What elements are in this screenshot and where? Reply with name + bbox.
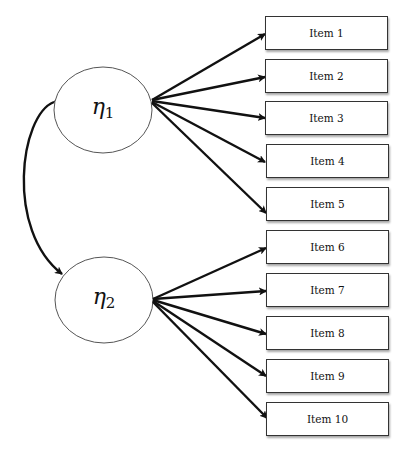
factor-subscript: 2 [106, 294, 116, 312]
item-label: Item 9 [310, 370, 345, 382]
item-label: Item 7 [310, 284, 345, 296]
item-label: Item 3 [309, 112, 344, 124]
loadings-eta2 [153, 248, 267, 418]
item-box-3: Item 3 [265, 101, 388, 135]
factor-symbol: η [93, 284, 106, 309]
item-label: Item 4 [310, 155, 345, 167]
item-box-8: Item 8 [266, 316, 389, 350]
item-label: Item 6 [310, 241, 345, 253]
item-box-1: Item 1 [265, 16, 388, 50]
item-box-4: Item 4 [266, 144, 389, 178]
loadings-eta1 [152, 34, 266, 213]
item-box-6: Item 6 [266, 230, 389, 264]
item-box-9: Item 9 [266, 359, 389, 393]
item-label: Item 8 [310, 327, 345, 339]
item-label: Item 10 [307, 413, 348, 425]
item-label: Item 5 [310, 198, 345, 210]
item-box-10: Item 10 [266, 402, 389, 436]
item-label: Item 1 [309, 27, 344, 39]
item-box-5: Item 5 [266, 187, 389, 221]
covariance-arrow [24, 102, 62, 274]
item-label: Item 2 [309, 70, 344, 82]
factor-symbol: η [92, 94, 105, 119]
factor-subscript: 1 [105, 104, 115, 122]
item-box-2: Item 2 [265, 59, 388, 93]
factor-label-eta1: η1 [54, 94, 152, 122]
factor-label-eta2: η2 [55, 284, 153, 312]
item-box-7: Item 7 [266, 273, 389, 307]
